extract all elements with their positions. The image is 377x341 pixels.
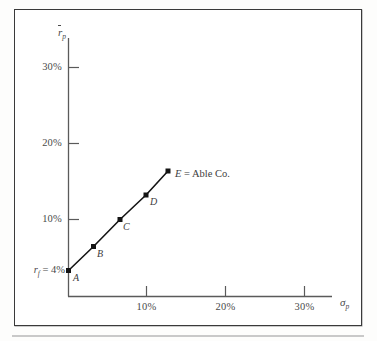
y-tick-label-20: 20%: [14, 137, 62, 148]
r-bar-glyph: r: [58, 26, 62, 38]
chart-plot-area: rp σp 30% 20% 10% 10% 20% 30% rf = 4% A …: [0, 0, 377, 341]
data-point-a-marker[interactable]: [66, 268, 71, 273]
data-point-a-label: A: [73, 272, 79, 283]
able-co-text: = Able Co.: [181, 168, 230, 179]
data-point-b-marker[interactable]: [91, 244, 96, 249]
x-tick-label-10: 10%: [122, 301, 171, 312]
x-tick-label-20: 20%: [201, 301, 250, 312]
y-tick-label-30: 30%: [14, 61, 62, 72]
data-point-c-label: C: [123, 221, 130, 232]
y-axis-symbol: r: [58, 26, 62, 38]
data-point-d-label: D: [150, 196, 157, 207]
x-axis-label: σp: [340, 296, 349, 311]
y-axis-subscript: p: [62, 32, 66, 41]
overbar-icon: [58, 25, 61, 26]
y-axis-label: rp: [58, 26, 66, 41]
risk-free-rate-label: rf = 4%: [5, 264, 65, 278]
data-point-d-marker[interactable]: [144, 193, 149, 198]
x-tick-label-30: 30%: [280, 301, 329, 312]
data-point-c-marker[interactable]: [118, 217, 123, 222]
y-tick-label-10: 10%: [14, 213, 62, 224]
x-axis-subscript: p: [345, 302, 349, 311]
risk-free-value: = 4%: [40, 264, 65, 275]
data-point-e-marker[interactable]: [166, 169, 171, 174]
able-co-annotation: E = Able Co.: [175, 168, 230, 179]
data-point-b-label: B: [97, 248, 103, 259]
